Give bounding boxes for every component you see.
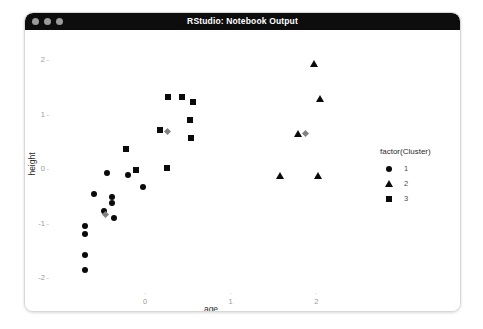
data-point-circle [91, 191, 97, 197]
data-point-circle [125, 172, 131, 178]
data-point-diamond [302, 130, 309, 137]
legend: factor(Cluster) 123 [380, 147, 458, 207]
legend-item-label: 1 [404, 164, 408, 173]
legend-marker-circle-icon [380, 162, 397, 175]
data-point-square [187, 117, 193, 123]
window-titlebar[interactable]: RStudio: Notebook Output [25, 13, 460, 30]
data-point-square [133, 167, 139, 173]
square-icon [386, 196, 392, 202]
data-point-circle [82, 267, 88, 273]
data-point-circle [109, 200, 115, 206]
data-point-triangle [314, 172, 322, 179]
data-point-square [123, 146, 129, 152]
data-point-triangle [316, 95, 324, 102]
screenshot-root: RStudio: Notebook Output height age 2-1-… [0, 0, 483, 329]
data-point-triangle [294, 130, 302, 137]
data-point-square [164, 165, 170, 171]
circle-icon [386, 166, 392, 172]
legend-item-label: 2 [404, 179, 408, 188]
legend-title: factor(Cluster) [380, 147, 458, 156]
data-point-square [190, 99, 196, 105]
legend-item-3: 3 [380, 192, 458, 205]
y-tick-label: 2- [27, 55, 49, 64]
legend-item-2: 2 [380, 177, 458, 190]
data-point-circle [82, 252, 88, 258]
data-point-square [165, 94, 171, 100]
data-point-diamond [164, 128, 171, 135]
window-title: RStudio: Notebook Output [25, 13, 460, 30]
legend-items: 123 [380, 162, 458, 205]
data-point-circle [82, 223, 88, 229]
data-point-triangle [276, 172, 284, 179]
data-point-triangle [310, 60, 318, 67]
x-tick-label: '0 [135, 293, 155, 306]
y-tick-label: -2- [27, 273, 49, 282]
y-tick-label: -1- [27, 219, 49, 228]
legend-marker-triangle-icon [380, 177, 397, 190]
rstudio-notebook-output-window: RStudio: Notebook Output height age 2-1-… [24, 12, 461, 312]
triangle-icon [385, 180, 393, 187]
data-point-circle [104, 170, 110, 176]
x-tick-label: '2 [306, 293, 326, 306]
legend-item-1: 1 [380, 162, 458, 175]
data-point-circle [140, 184, 146, 190]
data-point-circle [109, 194, 115, 200]
legend-marker-square-icon [380, 192, 397, 205]
legend-item-label: 3 [404, 194, 408, 203]
data-point-square [188, 135, 194, 141]
y-tick-label: 1- [27, 110, 49, 119]
data-point-diamond [102, 211, 109, 218]
scatter-plot: height age 2-1-0--1--2- '0'1'2 factor(Cl… [25, 30, 460, 311]
y-tick-label: 0- [27, 164, 49, 173]
data-point-circle [111, 215, 117, 221]
data-point-square [179, 94, 185, 100]
x-tick-label: '1 [221, 293, 241, 306]
data-point-circle [82, 231, 88, 237]
data-point-square [157, 127, 163, 133]
window-content: height age 2-1-0--1--2- '0'1'2 factor(Cl… [25, 30, 460, 311]
